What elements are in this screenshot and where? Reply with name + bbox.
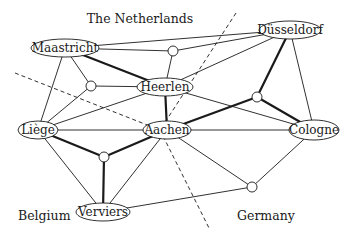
junction-circle xyxy=(252,92,262,102)
edge-maastricht-liege xyxy=(38,48,65,130)
nodes: MaastrichtDüsseldorfHeerlenLiègeAachenCo… xyxy=(18,21,339,221)
edge-c3-dusseldorf xyxy=(257,30,290,97)
region-label-belgium: Belgium xyxy=(18,208,71,223)
node-label: Düsseldorf xyxy=(257,23,324,37)
junction-c2 xyxy=(86,81,96,91)
node-dusseldorf: Düsseldorf xyxy=(257,21,324,39)
edge-aachen-c5 xyxy=(167,130,252,187)
junction-circle xyxy=(247,182,257,192)
node-label: Liège xyxy=(21,123,55,137)
junction-c1 xyxy=(168,46,178,56)
node-label: Aachen xyxy=(143,123,189,137)
border-be-de xyxy=(160,130,210,230)
node-maastricht: Maastricht xyxy=(31,39,99,57)
junction-c5 xyxy=(247,182,257,192)
node-label: Heerlen xyxy=(140,80,189,94)
node-label: Maastricht xyxy=(32,41,99,55)
edge-aachen-verviers xyxy=(103,130,167,212)
network-diagram: MaastrichtDüsseldorfHeerlenLiègeAachenCo… xyxy=(0,0,353,239)
node-liege: Liège xyxy=(18,121,58,139)
junction-c3 xyxy=(252,92,262,102)
node-aachen: Aachen xyxy=(143,121,191,139)
region-label-germany: Germany xyxy=(237,208,296,223)
node-label: Verviers xyxy=(77,205,128,219)
junction-circle xyxy=(168,46,178,56)
node-heerlen: Heerlen xyxy=(137,78,193,96)
edge-dusseldorf-cologne xyxy=(290,30,314,130)
junction-c4 xyxy=(99,152,109,162)
junction-circle xyxy=(99,152,109,162)
node-verviers: Verviers xyxy=(76,203,130,221)
region-label-netherlands: The Netherlands xyxy=(87,11,193,26)
edges xyxy=(38,30,314,212)
node-label: Cologne xyxy=(289,123,339,137)
diagram-canvas: MaastrichtDüsseldorfHeerlenLiègeAachenCo… xyxy=(0,0,353,239)
junction-circle xyxy=(86,81,96,91)
node-cologne: Cologne xyxy=(289,120,339,140)
